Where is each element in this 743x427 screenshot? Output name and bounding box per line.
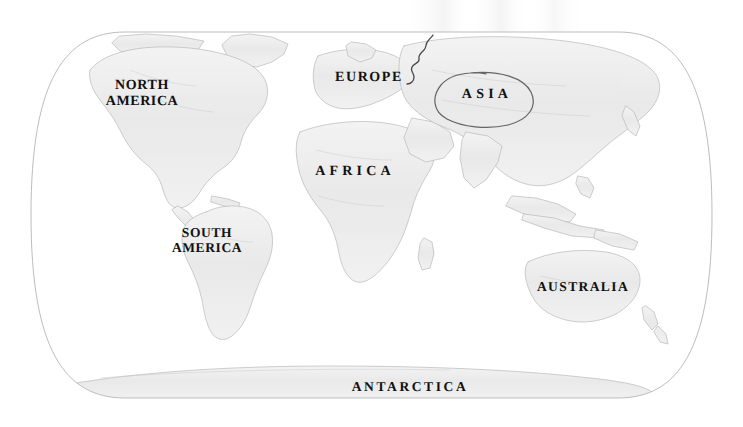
- world-map-graphic: [0, 0, 743, 427]
- world-map-container: NORTH AMERICA SOUTH AMERICA EUROPE AFRIC…: [0, 0, 743, 427]
